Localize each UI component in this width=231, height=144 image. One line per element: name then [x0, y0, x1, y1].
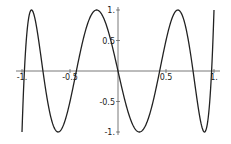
- tick-labels: -1.-0.50.51.1.0.5-0.5-1.: [17, 6, 218, 137]
- y-tick-label: 1.: [107, 6, 115, 15]
- x-tick-label: -1.: [17, 73, 28, 82]
- x-tick-label: 0.5: [160, 73, 173, 82]
- chart-plot: -1.-0.50.51.1.0.5-0.5-1.: [0, 0, 231, 144]
- y-tick-label: 0.5: [102, 37, 115, 46]
- y-tick-label: -0.5: [99, 98, 115, 107]
- y-tick-label: -1.: [104, 128, 115, 137]
